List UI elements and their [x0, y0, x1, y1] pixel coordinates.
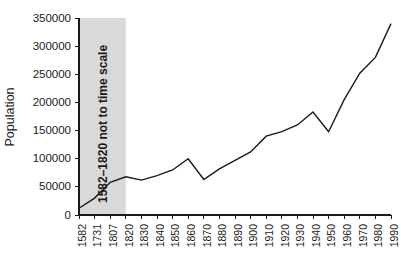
x-tick-label: 1950	[325, 224, 337, 248]
x-tick-label: 1990	[388, 224, 400, 248]
y-tick-label: 100000	[33, 152, 71, 164]
y-tick-label: 350000	[33, 12, 71, 24]
x-tick-label: 1960	[341, 224, 353, 248]
y-tick-label: 0	[65, 209, 71, 221]
x-tick-label: 1880	[216, 224, 228, 248]
x-tick-label: 1910	[263, 224, 275, 248]
band-annotation-label: 1582–1820 not to time scale	[96, 45, 110, 203]
x-tick-label: 1582	[76, 224, 88, 248]
y-tick-labels: 0500001000001500002000002500003000003500…	[33, 12, 71, 221]
y-axis-title: Population	[3, 87, 17, 146]
x-tick-label: 1840	[154, 224, 166, 248]
x-tick-label: 1860	[185, 224, 197, 248]
x-tick-label: 1970	[357, 224, 369, 248]
x-tick-label: 1820	[123, 224, 135, 248]
x-tick-label: 1890	[232, 224, 244, 248]
chart-canvas: 0500001000001500002000002500003000003500…	[0, 0, 401, 264]
x-tick-label: 1930	[294, 224, 306, 248]
y-tick-label: 150000	[33, 124, 71, 136]
y-tick-label: 50000	[39, 180, 71, 192]
x-tick-label: 1900	[247, 224, 259, 248]
x-tick-label: 1731	[91, 224, 103, 248]
y-tick-label: 200000	[33, 96, 71, 108]
y-tick-marks	[75, 18, 79, 215]
x-tick-labels: 1582173118071820183018401850186018701880…	[76, 224, 400, 248]
x-tick-label: 1920	[279, 224, 291, 248]
y-tick-label: 300000	[33, 40, 71, 52]
x-tick-label: 1870	[201, 224, 213, 248]
x-tick-label: 1850	[169, 224, 181, 248]
x-tick-label: 1940	[310, 224, 322, 248]
x-tick-label: 1830	[138, 224, 150, 248]
y-tick-label: 250000	[33, 68, 71, 80]
x-tick-label: 1807	[107, 224, 119, 248]
x-tick-label: 1980	[372, 224, 384, 248]
x-tick-marks	[79, 215, 391, 219]
population-line-chart: 0500001000001500002000002500003000003500…	[0, 0, 401, 264]
